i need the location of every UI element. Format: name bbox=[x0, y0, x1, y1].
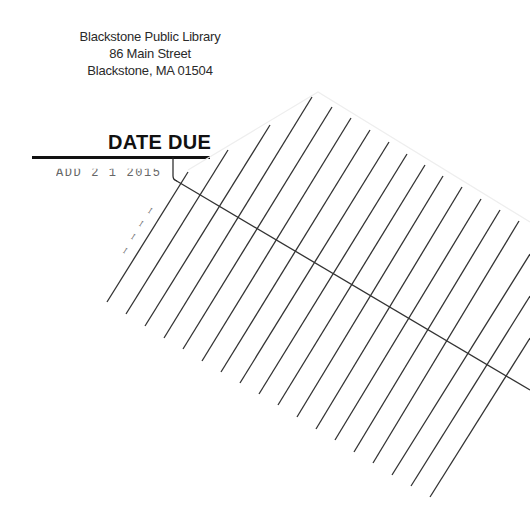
ruled-card bbox=[0, 0, 530, 509]
ruled-line-17 bbox=[411, 296, 530, 486]
ruled-line-18 bbox=[430, 338, 530, 497]
ruled-line-2 bbox=[126, 150, 228, 314]
ruled-line-16 bbox=[392, 254, 530, 475]
rule-tick bbox=[173, 157, 177, 181]
ruled-lines bbox=[107, 97, 530, 497]
ruled-line-1 bbox=[107, 172, 188, 302]
cross-line bbox=[175, 180, 530, 390]
